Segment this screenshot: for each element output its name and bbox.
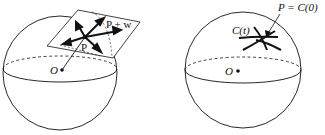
right-sphere-group: O C(t) P = C(0) <box>185 1 318 128</box>
left-origin-dot <box>60 68 64 72</box>
left-equator-front <box>3 69 117 82</box>
label-P-plus-w: P + w <box>106 18 131 30</box>
label-O-right: O <box>225 65 233 77</box>
left-equator-back <box>3 56 117 69</box>
curve-horizontal <box>239 37 278 38</box>
right-equator-back <box>185 57 301 70</box>
label-P: P <box>81 41 87 53</box>
label-P-eq-C0: P = C(0) <box>277 1 318 14</box>
figure-canvas: P P + w O O C(t) P = C(0) <box>0 0 325 135</box>
right-origin-dot <box>236 69 240 73</box>
label-O-left: O <box>50 64 58 76</box>
right-equator-front <box>185 70 301 83</box>
curve-steep <box>254 27 267 50</box>
point-P-dot <box>83 35 87 39</box>
curve-diagonal-down <box>256 40 281 50</box>
left-sphere-group: P P + w O <box>3 10 140 130</box>
label-C-t: C(t) <box>232 24 250 37</box>
